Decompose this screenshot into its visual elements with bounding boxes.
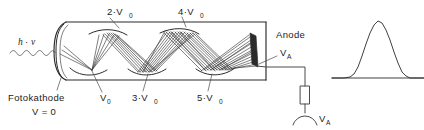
leader-dynode-3 xyxy=(143,74,148,91)
dynode-5-arc xyxy=(196,68,235,75)
leader-dynode-2 xyxy=(110,18,119,28)
photon-wave-icon xyxy=(10,50,55,55)
anode-voltage-sub: A xyxy=(287,53,292,60)
anode-plate-body xyxy=(250,33,258,67)
photocathode-voltage-label: V = 0 xyxy=(32,106,56,117)
dynode-4-label-sub: 0 xyxy=(200,12,204,19)
electron-paths-stage-0 xyxy=(60,46,92,70)
dynode-3-label: 3·V 0 xyxy=(132,92,158,105)
photon-label: h · ν xyxy=(18,36,36,47)
ground-arc-symbol xyxy=(293,116,317,125)
leader-photocathode xyxy=(57,78,61,90)
pulse-curve xyxy=(332,21,424,78)
dynode-5-label-text: 5·V xyxy=(197,92,213,103)
dynode-1-label-text: V xyxy=(100,92,107,103)
leader-anode-voltage xyxy=(259,56,277,64)
supply-voltage-sub: A xyxy=(326,119,331,126)
photon-label-h: h xyxy=(18,37,23,47)
dynode-4-label-text: 4·V xyxy=(178,6,194,17)
photon-label-nu: ν xyxy=(31,37,36,47)
supply-voltage-label: V A xyxy=(319,113,331,126)
anode-voltage-label: V A xyxy=(280,47,292,60)
anode-lead-wire xyxy=(257,66,305,86)
dynode-5-label: 5·V 0 xyxy=(197,92,223,105)
anode-voltage-text: V xyxy=(280,47,287,58)
photon-label-dot: · xyxy=(25,36,29,47)
dynode-1-label: V 0 xyxy=(100,92,111,105)
anode-label: Anode xyxy=(276,29,305,40)
supply-voltage-text: V xyxy=(319,113,326,124)
dynode-2-label-sub: 0 xyxy=(129,12,133,19)
dynode-2-label-text: 2·V xyxy=(107,6,123,17)
photon-group xyxy=(10,50,55,55)
output-pulse-chart xyxy=(332,21,424,78)
dynode-1-label-sub: 0 xyxy=(107,98,111,105)
anode-plate xyxy=(250,33,258,67)
resistor-symbol xyxy=(301,86,310,104)
pmt-figure: h · ν Fotokathode V = 0 V 0 2·V 0 3·V 0 … xyxy=(0,0,424,130)
dynode-2-label: 2·V 0 xyxy=(107,6,133,19)
leader-dynode-5 xyxy=(208,74,212,91)
dynode-3-label-text: 3·V xyxy=(132,92,148,103)
dynode-5-label-sub: 0 xyxy=(219,98,223,105)
dynode-3-label-sub: 0 xyxy=(154,98,158,105)
tube-envelope xyxy=(54,22,266,80)
dynode-1-arc xyxy=(70,68,107,75)
pmt-schematic-svg: h · ν Fotokathode V = 0 V 0 2·V 0 3·V 0 … xyxy=(0,0,424,130)
photocathode-label: Fotokathode xyxy=(8,92,65,103)
